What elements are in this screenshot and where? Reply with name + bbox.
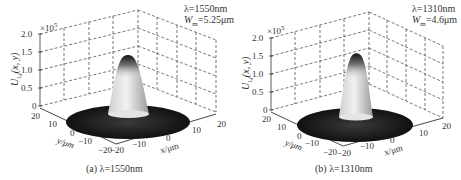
z-tick-label: 2.0 (252, 33, 263, 43)
caption-a: (a) λ=1550nm (86, 163, 143, 174)
y-tick-label: 0 (70, 128, 75, 138)
y-tick-label: 0 (297, 131, 302, 141)
annotation-b: λ=1310nm Wm=4.6μm (412, 3, 457, 30)
z-axis-label: Ui,j(x, y) (240, 57, 254, 90)
annotation-a: λ=1550nm Wm=5.25μm (184, 3, 234, 30)
y-tick-label: 20 (31, 111, 40, 121)
x-tick-label: −10 (360, 141, 374, 151)
mode-width-annotation: Wm=5.25μm (184, 14, 234, 30)
x-tick-label: 20 (442, 121, 451, 131)
z-multiplier: ×105 (40, 20, 58, 33)
x-tick-label: 10 (192, 125, 201, 135)
y-tick-label: 10 (48, 119, 57, 129)
z-multiplier: ×105 (267, 23, 285, 36)
wavelength-annotation: λ=1550nm (184, 3, 234, 14)
panel-a: λ=1550nm Wm=5.25μm ×105 2.0 1.5 1.0 0.5 … (0, 0, 230, 180)
panel-b: λ=1310nm Wm=4.6μm ×105 2.0 1.5 1.0 0.5 0… (231, 0, 461, 180)
y-tick-label: −10 (305, 138, 319, 148)
x-tick-label: 10 (419, 128, 428, 138)
z-axis-label: Ui,j(x, y) (9, 53, 23, 86)
z-tick-label: 2.0 (21, 29, 32, 39)
wavelength-annotation: λ=1310nm (412, 3, 457, 14)
y-tick-label: 20 (262, 114, 271, 124)
y-tick-label: −20 (323, 147, 337, 157)
x-tick-label: 20 (217, 119, 226, 129)
y-tick-label: −10 (78, 136, 92, 146)
x-tick-label: −20 (337, 148, 351, 158)
x-tick-label: −20 (110, 145, 124, 155)
y-tick-label: 10 (277, 122, 286, 132)
caption-b: (b) λ=1310nm (315, 163, 372, 174)
x-tick-label: −10 (132, 139, 146, 149)
mode-width-annotation: Wm=4.6μm (412, 14, 457, 30)
z-tick-label: 0 (32, 101, 37, 111)
